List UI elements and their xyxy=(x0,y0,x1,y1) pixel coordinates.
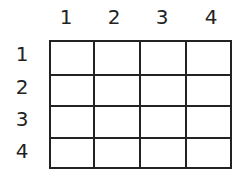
row-label-2: 2 xyxy=(10,77,34,97)
column-label-2: 2 xyxy=(99,7,129,27)
column-label-4: 4 xyxy=(196,7,226,27)
grid-hline-2 xyxy=(51,105,230,107)
column-label-3: 3 xyxy=(147,7,177,27)
column-label-1: 1 xyxy=(51,7,81,27)
grid-table xyxy=(49,40,232,169)
row-label-3: 3 xyxy=(10,109,34,129)
grid-hline-3 xyxy=(51,137,230,139)
row-label-1: 1 xyxy=(10,44,34,64)
grid-hline-1 xyxy=(51,74,230,76)
row-label-4: 4 xyxy=(10,141,34,161)
